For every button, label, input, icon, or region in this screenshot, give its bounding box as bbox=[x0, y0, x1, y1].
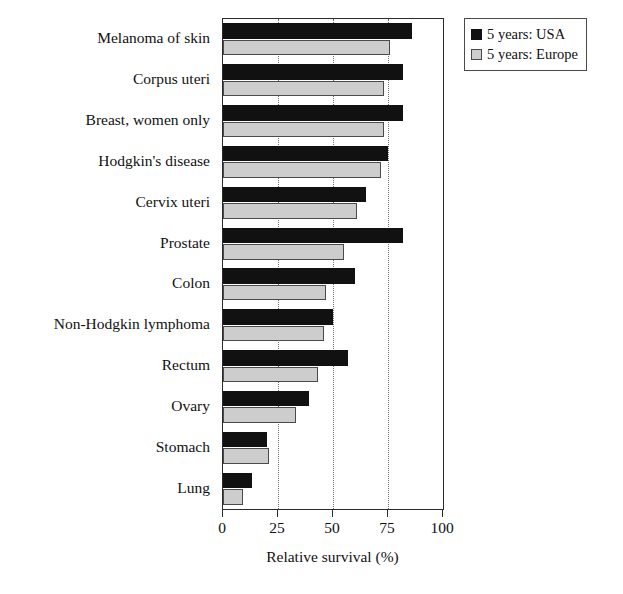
bar-europe bbox=[223, 162, 381, 178]
x-tick-label: 75 bbox=[379, 520, 395, 536]
bar-usa bbox=[223, 391, 309, 407]
bar-group bbox=[223, 60, 443, 101]
x-tick-0 bbox=[222, 510, 223, 517]
category-label: Melanoma of skin bbox=[97, 30, 210, 46]
bar-europe bbox=[223, 244, 344, 260]
category-label: Lung bbox=[177, 480, 210, 496]
bar-europe bbox=[223, 407, 296, 423]
bar-usa bbox=[223, 473, 252, 489]
bar-group bbox=[223, 19, 443, 60]
bar-group bbox=[223, 305, 443, 346]
bar-group bbox=[223, 387, 443, 428]
bar-usa bbox=[223, 350, 348, 366]
x-tick-label: 100 bbox=[430, 520, 453, 536]
bar-usa bbox=[223, 228, 403, 244]
x-axis-title: Relative survival (%) bbox=[222, 548, 443, 566]
bar-europe bbox=[223, 489, 243, 505]
bar-group bbox=[223, 223, 443, 264]
category-label: Prostate bbox=[160, 235, 210, 251]
x-tick-label: 50 bbox=[324, 520, 340, 536]
category-label: Non-Hodgkin lymphoma bbox=[54, 316, 210, 332]
bar-usa bbox=[223, 146, 388, 162]
category-label: Hodgkin's disease bbox=[98, 153, 210, 169]
x-tick-100 bbox=[442, 510, 443, 517]
category-label: Stomach bbox=[156, 439, 210, 455]
legend-label-europe: 5 years: Europe bbox=[487, 47, 578, 62]
bar-europe bbox=[223, 81, 384, 97]
bar-europe bbox=[223, 285, 326, 301]
category-label-column: Melanoma of skinCorpus uteriBreast, wome… bbox=[0, 18, 216, 508]
bar-europe bbox=[223, 367, 318, 383]
bar-usa bbox=[223, 105, 403, 121]
x-axis: 0255075100 bbox=[222, 509, 443, 511]
bar-usa bbox=[223, 268, 355, 284]
bar-europe bbox=[223, 122, 384, 138]
x-tick-label: 0 bbox=[218, 520, 226, 536]
bar-groups bbox=[223, 19, 443, 509]
bar-europe bbox=[223, 326, 324, 342]
bar-group bbox=[223, 142, 443, 183]
category-label: Cervix uteri bbox=[136, 194, 210, 210]
x-tick-75 bbox=[387, 510, 388, 517]
bar-group bbox=[223, 346, 443, 387]
bar-usa bbox=[223, 187, 366, 203]
bar-europe bbox=[223, 203, 357, 219]
category-label: Breast, women only bbox=[86, 112, 210, 128]
category-label: Rectum bbox=[162, 357, 210, 373]
legend-item-europe[interactable]: 5 years: Europe bbox=[471, 44, 578, 64]
bar-usa bbox=[223, 309, 333, 325]
relative-survival-bar-chart: Melanoma of skinCorpus uteriBreast, wome… bbox=[0, 0, 623, 594]
bar-usa bbox=[223, 432, 267, 448]
gray-square-swatch-icon bbox=[471, 49, 482, 60]
x-tick-25 bbox=[277, 510, 278, 517]
category-label: Corpus uteri bbox=[133, 71, 210, 87]
legend-item-usa[interactable]: 5 years: USA bbox=[471, 24, 578, 44]
category-label: Colon bbox=[172, 275, 210, 291]
bar-group bbox=[223, 468, 443, 509]
bar-group bbox=[223, 182, 443, 223]
bar-usa bbox=[223, 64, 403, 80]
bar-usa bbox=[223, 23, 412, 39]
plot-area bbox=[222, 18, 444, 510]
x-tick-label: 25 bbox=[269, 520, 285, 536]
bar-group bbox=[223, 427, 443, 468]
bar-group bbox=[223, 264, 443, 305]
legend: 5 years: USA 5 years: Europe bbox=[464, 18, 587, 71]
bar-group bbox=[223, 101, 443, 142]
legend-label-usa: 5 years: USA bbox=[487, 27, 565, 42]
category-label: Ovary bbox=[171, 398, 210, 414]
bar-europe bbox=[223, 448, 269, 464]
bar-europe bbox=[223, 40, 390, 56]
x-tick-50 bbox=[332, 510, 333, 517]
black-square-swatch-icon bbox=[471, 29, 482, 40]
